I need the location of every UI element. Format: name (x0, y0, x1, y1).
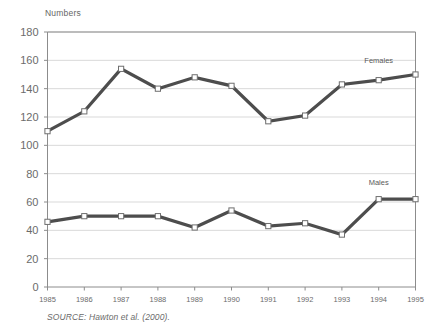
data-point-marker (82, 214, 87, 219)
y-axis-tick-label: 0 (32, 281, 38, 293)
x-axis-ticks-group: 1985198619871988198919901991199219931994… (39, 287, 424, 304)
data-point-marker (192, 225, 197, 230)
x-axis-tick-label: 1987 (113, 295, 130, 304)
data-point-marker (413, 197, 418, 202)
y-axis-tick-label: 80 (26, 168, 38, 180)
x-axis-tick-label: 1989 (186, 295, 203, 304)
y-axis-tick-label: 20 (26, 253, 38, 265)
series-line-males (48, 199, 416, 234)
data-point-marker (119, 214, 124, 219)
data-point-marker (45, 129, 50, 134)
data-point-marker (119, 66, 124, 71)
data-point-marker (82, 109, 87, 114)
y-axis-tick-label: 100 (20, 139, 38, 151)
data-point-marker (376, 78, 381, 83)
data-point-marker (192, 75, 197, 80)
x-axis-tick-label: 1994 (370, 295, 387, 304)
data-point-marker (339, 82, 344, 87)
source-note: SOURCE: Hawton et al. (2000). (47, 312, 170, 322)
data-point-marker (413, 72, 418, 77)
data-point-marker (303, 113, 308, 118)
x-axis-tick-label: 1988 (150, 295, 167, 304)
data-point-marker (155, 214, 160, 219)
data-point-marker (45, 219, 50, 224)
data-point-marker (229, 83, 234, 88)
data-point-marker (303, 221, 308, 226)
y-axis-tick-label: 60 (26, 196, 38, 208)
y-axis-tick-label: 160 (20, 54, 38, 66)
data-point-marker (376, 197, 381, 202)
data-point-marker (266, 223, 271, 228)
x-axis-tick-label: 1993 (334, 295, 351, 304)
x-axis-tick-label: 1992 (297, 295, 314, 304)
series-annotation-females: Females (364, 56, 393, 65)
data-point-marker (155, 86, 160, 91)
x-axis-tick-label: 1995 (407, 295, 424, 304)
data-series-group (45, 66, 418, 237)
y-axis-tick-label: 120 (20, 111, 38, 123)
data-point-marker (266, 119, 271, 124)
data-point-marker (229, 208, 234, 213)
series-annotation-males: Males (369, 178, 389, 187)
y-axis-tick-label: 40 (26, 224, 38, 236)
data-point-marker (339, 232, 344, 237)
x-axis-tick-label: 1986 (76, 295, 93, 304)
gridlines-group (48, 32, 416, 259)
series-annotations-group: FemalesMales (364, 56, 393, 187)
chart-plot-area: 020406080100120140160180 198519861987198… (0, 0, 427, 333)
x-axis-tick-label: 1991 (260, 295, 277, 304)
y-axis-ticks-group: 020406080100120140160180 (20, 26, 47, 293)
axis-lines-group (48, 32, 416, 287)
line-chart-figure: Numbers 020406080100120140160180 1985198… (0, 0, 427, 333)
x-axis-tick-label: 1985 (39, 295, 56, 304)
y-axis-tick-label: 140 (20, 83, 38, 95)
x-axis-tick-label: 1990 (223, 295, 240, 304)
series-line-females (48, 69, 416, 131)
y-axis-tick-label: 180 (20, 26, 38, 38)
